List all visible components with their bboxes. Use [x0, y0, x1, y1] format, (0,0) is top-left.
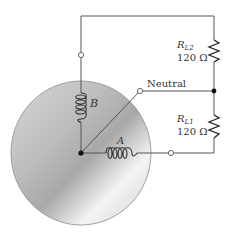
terminal-neutral-open-circle	[137, 88, 142, 93]
rl2-label: RL2	[176, 39, 194, 52]
top-wire	[81, 16, 214, 52]
resistor-rl2-icon	[209, 40, 219, 62]
resistor-rl1-icon	[209, 115, 219, 138]
terminal-b-open-circle	[78, 52, 83, 57]
junction-dot-right	[212, 89, 217, 94]
coil-b-label: B	[89, 97, 98, 110]
rl1-label: RL1	[176, 113, 194, 126]
generator-circuit-diagram: B A Neutral RL2 120 Ω RL1 120 Ω	[0, 0, 233, 238]
right-wire-bottom	[174, 138, 214, 153]
neutral-label: Neutral	[147, 78, 186, 89]
terminal-a-open-circle	[168, 150, 173, 155]
junction-dot-center	[78, 150, 83, 155]
coil-a-label: A	[116, 135, 124, 146]
rl2-value: 120 Ω	[177, 52, 208, 63]
rl1-value: 120 Ω	[177, 126, 208, 137]
